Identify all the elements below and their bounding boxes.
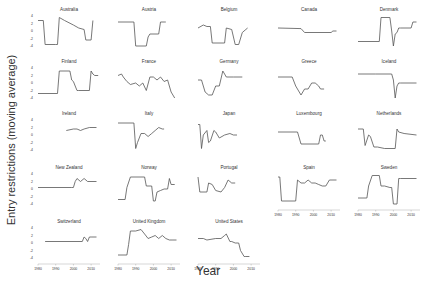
panel-united-kingdom: United Kingdom	[118, 219, 177, 255]
x-axis: 1980199020002010	[354, 210, 420, 217]
panel-title: France	[142, 59, 157, 64]
y-axis: 420-2-4	[30, 226, 33, 260]
y-tick-label: -4	[30, 44, 33, 48]
panel-title: Switzerland	[57, 219, 81, 224]
x-tick-label: 1990	[52, 267, 60, 271]
series-line	[358, 176, 417, 205]
panel-ireland: Ireland	[62, 111, 97, 131]
x-axis: 1980199020002010	[114, 264, 180, 271]
y-tick-label: 2	[31, 22, 33, 26]
y-tick-label: 0	[31, 29, 33, 33]
y-axis: 420-2-4	[30, 14, 33, 48]
y-tick-label: 2	[31, 74, 33, 78]
panel-title: Italy	[145, 111, 154, 116]
panel-title: Spain	[303, 165, 315, 170]
x-tick-label: 1980	[114, 267, 122, 271]
x-tick-label: 1990	[132, 267, 140, 271]
x-tick-label: 2010	[407, 213, 415, 217]
panel-portugal: Portugal	[198, 165, 238, 192]
series-line	[278, 177, 337, 201]
y-tick-label: -4	[30, 148, 33, 152]
x-tick-label: 2000	[390, 213, 398, 217]
y-axis: 420-2-4	[30, 118, 33, 152]
panel-spain: Spain	[278, 165, 337, 201]
x-axis-title: Year	[196, 264, 220, 278]
panel-netherlands: Netherlands	[358, 111, 417, 149]
panel-title: Australia	[60, 7, 78, 12]
y-tick-label: 2	[31, 180, 33, 184]
series-line	[38, 18, 93, 45]
series-line	[66, 128, 96, 131]
series-line	[38, 71, 98, 94]
panel-title: Norway	[141, 165, 157, 170]
x-tick-label: 2010	[327, 213, 335, 217]
panel-luxembourg: Luxembourg	[278, 111, 326, 144]
x-axis: 1980199020002010	[34, 264, 100, 271]
panel-norway: Norway	[118, 165, 175, 201]
small-multiples-chart: AustraliaAustriaBelgiumCanadaDenmarkFinl…	[0, 0, 425, 286]
panel-united-states: United States	[198, 219, 249, 257]
panel-greece: Greece	[278, 59, 324, 95]
panel-iceland: Iceland	[358, 59, 417, 98]
y-tick-label: -4	[30, 96, 33, 100]
panel-title: Netherlands	[377, 111, 402, 116]
x-tick-label: 2000	[310, 213, 318, 217]
panel-title: United States	[215, 219, 243, 224]
panel-title: Sweden	[381, 165, 398, 170]
panel-new-zealand: New Zealand	[38, 165, 97, 188]
panel-canada: Canada	[278, 7, 337, 33]
panel-title: Canada	[301, 7, 318, 12]
panels-canvas: AustraliaAustriaBelgiumCanadaDenmarkFinl…	[0, 0, 425, 286]
y-tick-label: -2	[30, 89, 33, 93]
panel-title: New Zealand	[55, 165, 83, 170]
series-line	[278, 28, 337, 33]
x-tick-label: 2000	[150, 267, 158, 271]
y-tick-label: -4	[30, 256, 33, 260]
series-line	[198, 71, 242, 95]
y-tick-label: 4	[31, 14, 33, 18]
panel-title: United Kingdom	[133, 219, 166, 224]
y-tick-label: 4	[31, 118, 33, 122]
series-line	[198, 177, 235, 192]
y-tick-label: 4	[31, 66, 33, 70]
series-line	[118, 123, 164, 149]
panel-sweden: Sweden	[358, 165, 417, 204]
panel-austria: Austria	[118, 7, 166, 46]
panel-title: Greece	[301, 59, 317, 64]
y-tick-label: 2	[31, 234, 33, 238]
y-tick-label: -2	[30, 195, 33, 199]
x-tick-label: 2010	[167, 267, 175, 271]
series-line	[38, 179, 97, 188]
x-tick-label: 1990	[292, 213, 300, 217]
panel-belgium: Belgium	[198, 7, 248, 45]
panel-australia: Australia	[38, 7, 93, 45]
y-axis: 420-2-4	[30, 172, 33, 206]
x-tick-label: 1990	[372, 213, 380, 217]
series-line	[198, 25, 248, 45]
panel-title: Denmark	[380, 7, 399, 12]
panel-title: Finland	[61, 59, 77, 64]
series-line	[45, 237, 96, 242]
y-tick-label: -2	[30, 37, 33, 41]
y-axis-title-text: Entry restrictions (moving average)	[5, 55, 17, 226]
series-line	[198, 125, 237, 149]
x-tick-label: 1980	[354, 213, 362, 217]
panel-switzerland: Switzerland	[45, 219, 96, 242]
series-line	[278, 132, 326, 144]
x-tick-label: 2010	[247, 267, 255, 271]
y-tick-label: 4	[31, 226, 33, 230]
y-tick-label: 0	[31, 187, 33, 191]
panel-france: France	[118, 59, 175, 98]
x-tick-label: 1980	[34, 267, 42, 271]
panel-title: Portugal	[220, 165, 237, 170]
series-line	[118, 22, 166, 46]
series-line	[358, 129, 417, 149]
panel-title: Ireland	[62, 111, 76, 116]
series-line	[358, 74, 417, 98]
panel-germany: Germany	[198, 59, 242, 95]
panel-denmark: Denmark	[358, 7, 417, 46]
series-line	[278, 77, 324, 95]
panel-title: Luxembourg	[296, 111, 322, 116]
panel-italy: Italy	[118, 111, 164, 149]
series-line	[198, 234, 249, 257]
